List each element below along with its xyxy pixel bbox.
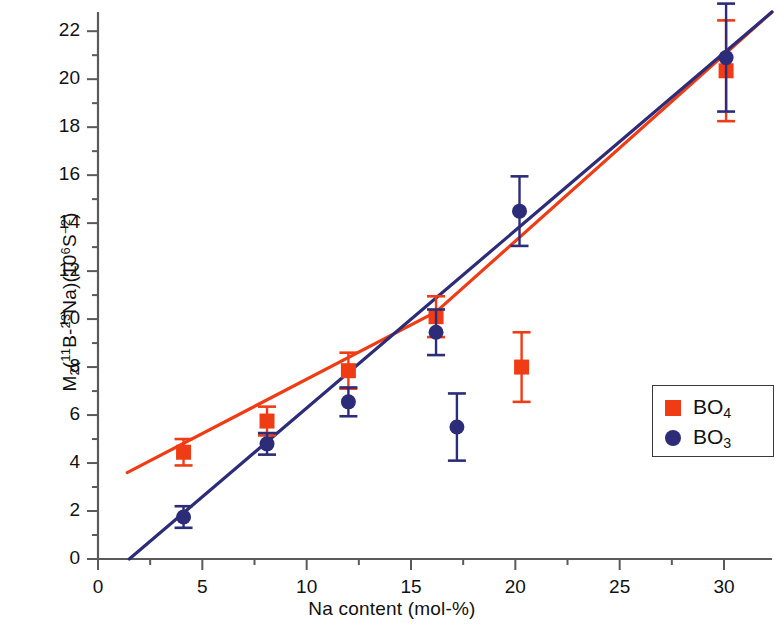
y-tick-label: 20 (34, 67, 80, 89)
data-point-bo3[interactable] (449, 420, 464, 435)
legend-label-bo4: BO4 (693, 396, 731, 420)
legend-label-bo3: BO3 (693, 426, 731, 450)
x-axis-title: Na content (mol-%) (0, 598, 784, 620)
data-point-bo4[interactable] (260, 414, 275, 429)
y-tick-label: 22 (34, 19, 80, 41)
data-point-bo3[interactable] (176, 510, 191, 525)
data-point-bo3[interactable] (429, 325, 444, 340)
legend-item-bo3: BO3 (665, 423, 759, 453)
chart-figure: M2(11B-23Na)(106S−2) Na content (mol-%) … (0, 0, 784, 642)
x-tick-label: 20 (492, 576, 538, 598)
y-tick-label: 2 (34, 499, 80, 521)
x-tick-label: 5 (179, 576, 225, 598)
y-tick-label: 6 (34, 403, 80, 425)
x-tick-label: 10 (284, 576, 330, 598)
y-tick-label: 0 (34, 547, 80, 569)
legend-item-bo4: BO4 (665, 393, 759, 423)
data-point-bo4[interactable] (341, 363, 356, 378)
y-tick-label: 10 (34, 307, 80, 329)
fit-line-bo3 (129, 12, 772, 559)
plot-canvas (0, 0, 784, 642)
legend-swatch-square-icon (665, 400, 681, 416)
x-tick-label: 0 (75, 576, 121, 598)
x-tick-label: 15 (388, 576, 434, 598)
data-point-bo3[interactable] (260, 436, 275, 451)
data-point-bo3[interactable] (719, 50, 734, 65)
x-tick-label: 25 (597, 576, 643, 598)
legend: BO4 BO3 (652, 385, 774, 457)
y-tick-label: 12 (34, 259, 80, 281)
data-point-bo4[interactable] (176, 445, 191, 460)
legend-swatch-circle-icon (665, 430, 681, 446)
x-tick-label: 30 (701, 576, 747, 598)
data-point-bo3[interactable] (512, 204, 527, 219)
y-tick-label: 16 (34, 163, 80, 185)
data-point-bo3[interactable] (341, 394, 356, 409)
data-point-bo4[interactable] (514, 360, 529, 375)
y-tick-label: 8 (34, 355, 80, 377)
y-tick-label: 18 (34, 115, 80, 137)
y-tick-label: 14 (34, 211, 80, 233)
y-tick-label: 4 (34, 451, 80, 473)
